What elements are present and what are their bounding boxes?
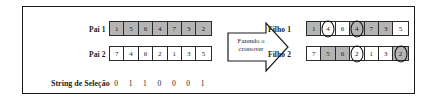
parent-2-gene-5-value: 3 — [187, 50, 191, 58]
parent-2-gene-4-value: 1 — [173, 50, 177, 58]
child-1-gene-5: 3 — [379, 22, 393, 35]
crossover-arrow-line2: crossover — [230, 45, 272, 53]
child-1-gene-5-value: 3 — [384, 25, 388, 33]
child-1-gene-1-value: 4 — [326, 25, 330, 33]
child-2-gene-3-value: 2 — [355, 50, 359, 58]
parent-2-chromosome: 7462135 — [109, 46, 212, 61]
child-1-chromosome: 1464735 — [306, 21, 409, 36]
parent-1-gene-4-value: 7 — [173, 25, 177, 33]
parent-2-gene-1-value: 4 — [129, 50, 133, 58]
parent-1-gene-0: 1 — [110, 22, 124, 35]
parent-1-gene-4: 7 — [168, 22, 182, 35]
parent-1-gene-3: 4 — [153, 22, 167, 35]
child-1-gene-4: 7 — [365, 22, 379, 35]
child-2-gene-5-value: 3 — [384, 50, 388, 58]
child-1-gene-4-value: 7 — [370, 25, 374, 33]
selection-string-bit-2: 1 — [138, 79, 152, 88]
parent-2-gene-0-value: 7 — [115, 50, 119, 58]
child-2-gene-5: 3 — [379, 47, 393, 60]
child-1-gene-6: 5 — [393, 22, 407, 35]
parent-1-gene-2-value: 6 — [144, 25, 148, 33]
selection-string-label: String de Seleção — [51, 79, 110, 88]
parent-1-gene-6: 2 — [196, 22, 210, 35]
parent-1-label: Pai 1 — [89, 25, 106, 34]
selection-string-bit-6: 1 — [195, 79, 209, 88]
parent-1-gene-5-value: 3 — [187, 25, 191, 33]
parent-2-gene-5: 3 — [182, 47, 196, 60]
child-2-gene-1: 5 — [321, 47, 335, 60]
crossover-arrow-line1: Fazendo o — [238, 37, 265, 44]
selection-string-bit-0: 0 — [109, 79, 123, 88]
parent-1-gene-2: 6 — [139, 22, 153, 35]
parent-2-gene-2: 6 — [139, 47, 153, 60]
child-2-gene-0-value: 7 — [312, 50, 316, 58]
parent-1-gene-3-value: 4 — [158, 25, 162, 33]
child-2-gene-6: 2 — [393, 47, 407, 60]
figure-canvas: Pai 1 1564732 Pai 2 7462135 Fazendo o cr… — [0, 0, 436, 100]
child-1-gene-3-value: 4 — [355, 25, 359, 33]
child-2-chromosome: 7562132 — [306, 46, 409, 61]
parent-1-gene-6-value: 2 — [202, 25, 206, 33]
child-2-gene-6-value: 2 — [399, 50, 403, 58]
selection-string-bit-4: 0 — [167, 79, 181, 88]
child-2-gene-2-value: 6 — [341, 50, 345, 58]
child-1-gene-2-value: 6 — [341, 25, 345, 33]
parent-2-gene-6: 5 — [196, 47, 210, 60]
parent-2-gene-3: 2 — [153, 47, 167, 60]
parent-2-gene-4: 1 — [168, 47, 182, 60]
parent-2-gene-1: 4 — [124, 47, 138, 60]
parent-1-chromosome: 1564732 — [109, 21, 212, 36]
child-1-gene-3: 4 — [350, 22, 364, 35]
selection-string-bits: 0110001 — [109, 79, 210, 88]
child-2-gene-4-value: 1 — [370, 50, 374, 58]
selection-string-bit-5: 0 — [181, 79, 195, 88]
child-1-gene-1: 4 — [321, 22, 335, 35]
child-1-label: Filho 1 — [268, 25, 291, 34]
child-1-gene-2: 6 — [336, 22, 350, 35]
parent-2-label: Pai 2 — [89, 50, 106, 59]
child-1-gene-0-value: 1 — [312, 25, 316, 33]
figure-panel: Pai 1 1564732 Pai 2 7462135 Fazendo o cr… — [22, 6, 415, 94]
selection-string-bit-1: 1 — [123, 79, 137, 88]
child-2-gene-0: 7 — [307, 47, 321, 60]
parent-2-gene-2-value: 6 — [144, 50, 148, 58]
child-2-label: Filho 2 — [268, 50, 291, 59]
parent-1-gene-5: 3 — [182, 22, 196, 35]
crossover-arrow-text: Fazendo o crossover — [230, 37, 272, 53]
child-2-gene-4: 1 — [365, 47, 379, 60]
selection-string-bit-3: 0 — [152, 79, 166, 88]
parent-1-gene-0-value: 1 — [115, 25, 119, 33]
child-2-gene-3: 2 — [350, 47, 364, 60]
parent-2-gene-6-value: 5 — [202, 50, 206, 58]
child-2-gene-2: 6 — [336, 47, 350, 60]
child-2-gene-1-value: 5 — [326, 50, 330, 58]
parent-2-gene-3-value: 2 — [158, 50, 162, 58]
child-1-gene-0: 1 — [307, 22, 321, 35]
parent-1-gene-1-value: 5 — [129, 25, 133, 33]
child-1-gene-6-value: 5 — [399, 25, 403, 33]
parent-2-gene-0: 7 — [110, 47, 124, 60]
parent-1-gene-1: 5 — [124, 22, 138, 35]
